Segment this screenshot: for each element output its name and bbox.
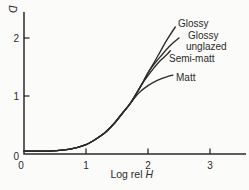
curve-label: Semi-matt	[169, 53, 215, 64]
x-tick-label: 3	[207, 160, 213, 171]
x-tick-label: 1	[83, 160, 89, 171]
x-axis-label-prefix: Log rel	[110, 168, 142, 180]
curve-semi-matt	[24, 51, 170, 151]
curve-label: Glossy	[188, 30, 219, 41]
curve-label: Matt	[176, 72, 196, 83]
x-tick-label: 0	[18, 160, 24, 171]
curve-matt	[24, 75, 173, 151]
curve-label: Glossy	[178, 18, 209, 29]
y-tick-label: 0	[13, 151, 19, 162]
y-tick-label: 2	[13, 33, 19, 44]
curve-glossy	[24, 27, 175, 151]
curve-label: unglazed	[186, 41, 227, 52]
characteristic-curves-chart: 0123012 GlossyGlossyunglazedSemi-mattMat…	[0, 0, 249, 190]
x-axis-label-symbol: H	[146, 168, 154, 180]
y-tick-label: 1	[13, 91, 19, 102]
curves-layer	[24, 27, 179, 151]
curve-glossy-unglazed	[24, 38, 179, 151]
characteristic-curve-figure: 0123012 GlossyGlossyunglazedSemi-mattMat…	[0, 0, 249, 190]
curve-labels-layer: GlossyGlossyunglazedSemi-mattMatt	[169, 18, 227, 83]
y-axis-label: D	[7, 5, 19, 13]
